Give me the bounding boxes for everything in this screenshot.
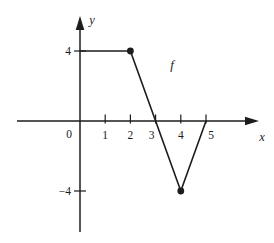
marked-point <box>177 188 184 195</box>
marked-point <box>127 48 134 55</box>
y-axis-label: y <box>87 13 95 27</box>
figure-function-graph: xy0123454−4f <box>0 0 274 243</box>
x-tick-label: 1 <box>102 129 108 141</box>
function-graph-svg: xy0123454−4f <box>0 0 274 243</box>
origin-tick-label: 0 <box>66 128 72 140</box>
x-axis-arrow-icon <box>245 117 259 126</box>
y-axis-arrow-icon <box>76 16 85 30</box>
x-tick-label: 3 <box>149 129 155 141</box>
x-tick-label: 5 <box>208 129 214 141</box>
x-axis-label: x <box>258 130 265 144</box>
y-tick-label: −4 <box>59 185 71 197</box>
y-tick-label: 4 <box>65 45 71 57</box>
x-tick-label: 4 <box>178 129 184 141</box>
function-name-label: f <box>170 57 176 72</box>
x-tick-label: 2 <box>128 129 134 141</box>
